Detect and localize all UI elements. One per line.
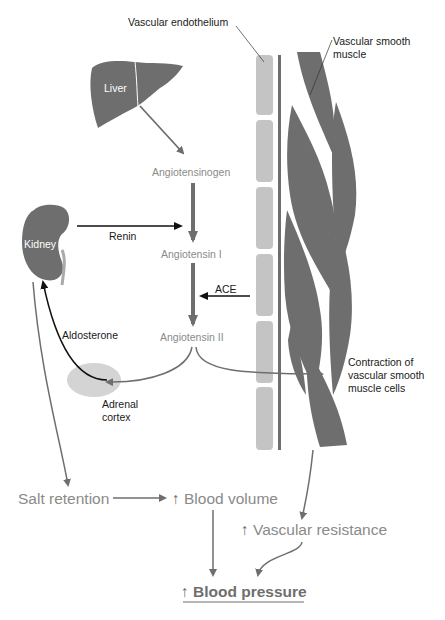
vascular-smooth-muscle-label-2: muscle: [333, 48, 366, 60]
vascular-endothelium-label: Vascular endothelium: [128, 16, 228, 28]
salt-retention-label: Salt retention: [18, 490, 109, 507]
up-arrow-vascular-resistance: ↑: [241, 521, 249, 538]
renin-label: Renin: [109, 230, 137, 242]
contraction-label-2: vascular smooth: [348, 369, 425, 381]
vascular-resistance-label: Vascular resistance: [253, 521, 387, 538]
liver-to-angiotensinogen-arrow: [140, 106, 183, 153]
endothelium-leader-line: [236, 26, 264, 62]
vascular-smooth-muscle: [284, 52, 356, 447]
adrenal-cortex-label-2: cortex: [102, 411, 131, 423]
raas-diagram: Liver Kidney Vascular endothelium Vascul…: [0, 0, 445, 620]
contraction-label-1: Contraction of: [348, 356, 413, 368]
resistance-to-pressure-arrow: [258, 542, 302, 575]
up-arrow-blood-volume: ↑: [172, 490, 180, 507]
ace-label: ACE: [215, 283, 237, 295]
adrenal-cortex-label-1: Adrenal: [102, 398, 138, 410]
blood-pressure-label: Blood pressure: [193, 583, 307, 600]
kidney-label: Kidney: [24, 238, 57, 250]
kidney: Kidney: [22, 205, 69, 285]
aldosterone-label: Aldosterone: [62, 329, 118, 341]
angiotensinogen-label: Angiotensinogen: [152, 166, 230, 178]
muscle-to-resistance-arrow: [302, 450, 313, 518]
adrenal-cortex: [67, 363, 121, 397]
angiotensin-1-label: Angiotensin I: [161, 248, 222, 260]
contraction-label-3: muscle cells: [348, 382, 405, 394]
liver: Liver: [90, 61, 183, 128]
vascular-endothelium: [256, 55, 281, 450]
angiotensin-2-label: Angiotensin II: [160, 331, 224, 343]
up-arrow-blood-pressure: ↑: [181, 583, 189, 600]
vascular-smooth-muscle-label-1: Vascular smooth: [333, 35, 411, 47]
blood-volume-label: Blood volume: [184, 490, 278, 507]
liver-label: Liver: [104, 82, 127, 94]
